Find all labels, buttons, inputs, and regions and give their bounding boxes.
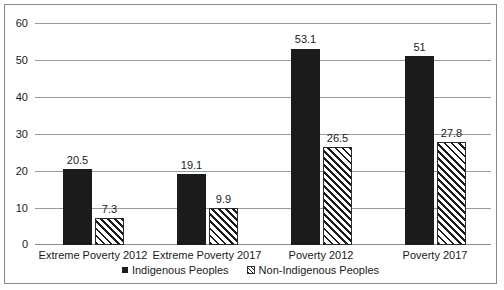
bar-value-indigenous-poverty-2017: 51 xyxy=(413,41,425,53)
ytick-label-0: 0 xyxy=(22,238,28,250)
ytick-label-20: 20 xyxy=(16,165,28,177)
bar-non-indigenous-extreme-poverty-2012[interactable] xyxy=(95,218,124,245)
bar-non-indigenous-poverty-2012[interactable] xyxy=(323,147,352,245)
bar-indigenous-extreme-poverty-2017[interactable] xyxy=(177,174,206,245)
bar-indigenous-poverty-2017[interactable] xyxy=(405,56,434,245)
gridline-60: 60 xyxy=(35,23,491,24)
category-label-poverty-2012: Poverty 2012 xyxy=(289,249,354,261)
chart-legend: Indigenous Peoples Non-Indigenous People… xyxy=(5,264,496,276)
bar-indigenous-extreme-poverty-2012[interactable] xyxy=(63,169,92,245)
ytick-label-60: 60 xyxy=(16,17,28,29)
category-label-poverty-2017: Poverty 2017 xyxy=(403,249,468,261)
chart-screenshot: 60 50 40 30 20 10 0 20.5 7 xyxy=(0,0,504,290)
bar-indigenous-poverty-2012[interactable] xyxy=(291,49,320,246)
bar-non-indigenous-extreme-poverty-2017[interactable] xyxy=(209,208,238,245)
legend-item-non-indigenous-peoples[interactable]: Non-Indigenous Peoples xyxy=(247,264,379,276)
category-label-extreme-poverty-2017: Extreme Poverty 2017 xyxy=(153,249,262,261)
bar-value-indigenous-extreme-poverty-2012: 20.5 xyxy=(67,154,88,166)
bar-non-indigenous-poverty-2017[interactable] xyxy=(437,142,466,245)
legend-label-non-indigenous-peoples: Non-Indigenous Peoples xyxy=(259,264,379,276)
chart-frame: 60 50 40 30 20 10 0 20.5 7 xyxy=(4,4,497,284)
ytick-label-10: 10 xyxy=(16,202,28,214)
bar-value-non-indigenous-poverty-2017: 27.8 xyxy=(441,127,462,139)
legend-item-indigenous-peoples[interactable]: Indigenous Peoples xyxy=(122,264,229,276)
plot-area: 60 50 40 30 20 10 0 20.5 7 xyxy=(35,23,491,245)
ytick-label-30: 30 xyxy=(16,128,28,140)
category-label-extreme-poverty-2012: Extreme Poverty 2012 xyxy=(39,249,148,261)
legend-label-indigenous-peoples: Indigenous Peoples xyxy=(132,264,229,276)
legend-hatched-square-icon xyxy=(247,266,255,274)
ytick-label-50: 50 xyxy=(16,54,28,66)
bar-value-indigenous-poverty-2012: 53.1 xyxy=(295,33,316,45)
bar-value-non-indigenous-poverty-2012: 26.5 xyxy=(327,132,348,144)
bar-value-non-indigenous-extreme-poverty-2017: 9.9 xyxy=(216,193,231,205)
legend-solid-square-icon xyxy=(122,267,128,273)
ytick-label-40: 40 xyxy=(16,91,28,103)
bar-value-indigenous-extreme-poverty-2017: 19.1 xyxy=(181,159,202,171)
bar-value-non-indigenous-extreme-poverty-2012: 7.3 xyxy=(102,203,117,215)
